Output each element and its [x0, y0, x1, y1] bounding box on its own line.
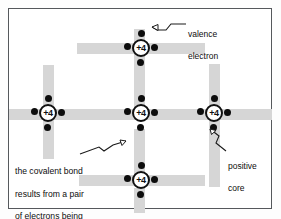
positive-core-bottom[interactable]: +4 — [122, 161, 160, 199]
positive-core-top[interactable]: +4 — [122, 29, 160, 67]
valence-electron-dot — [210, 124, 217, 131]
valence-electron-label-line2: electron — [188, 51, 218, 62]
valence-electron-dot — [58, 109, 65, 116]
valence-electron-dot — [138, 162, 145, 169]
valence-electron-dot — [124, 175, 131, 182]
positive-core-label-line1: positive — [228, 161, 257, 172]
valence-electron-dot — [151, 44, 158, 51]
valence-electron-dot — [124, 108, 131, 115]
valence-electron-dot — [138, 30, 145, 37]
valence-electron-dot — [138, 95, 145, 102]
valence-electron-dot — [124, 43, 131, 50]
valence-electron-dot — [211, 95, 218, 102]
valence-electron-dot — [151, 109, 158, 116]
core-charge-label: +4 — [132, 171, 150, 189]
positive-core-label-line2: core — [228, 183, 257, 194]
valence-electron-dot — [137, 59, 144, 66]
positive-core-label: positive core — [228, 150, 257, 205]
valence-electron-dot — [44, 124, 51, 131]
valence-electron-dot — [31, 108, 38, 115]
core-charge-label: +4 — [39, 104, 57, 122]
covalent-bond-label-line2: results from a pair — [15, 189, 84, 200]
valence-electron-dot — [45, 95, 52, 102]
valence-electron-dot — [137, 124, 144, 131]
covalent-bond-label-line1: the covalent bond — [15, 166, 84, 177]
valence-electron-dot — [151, 176, 158, 183]
core-charge-label: +4 — [132, 104, 150, 122]
diagram-canvas: +4 +4 +4 +4 +4 — [0, 0, 281, 219]
valence-electron-label: valence electron — [188, 18, 218, 73]
positive-core-center[interactable]: +4 — [122, 94, 160, 132]
positive-core-left[interactable]: +4 — [29, 94, 67, 132]
core-charge-label: +4 — [132, 39, 150, 57]
core-charge-label: +4 — [205, 104, 223, 122]
valence-electron-dot — [197, 108, 204, 115]
valence-electron-label-line1: valence — [188, 29, 218, 40]
valence-electron-dot — [224, 109, 231, 116]
covalent-bond-label: the covalent bond results from a pair of… — [15, 155, 84, 219]
covalent-bond-label-line3: of electrons being — [15, 211, 84, 219]
valence-electron-dot — [137, 191, 144, 198]
positive-core-right[interactable]: +4 — [195, 94, 233, 132]
